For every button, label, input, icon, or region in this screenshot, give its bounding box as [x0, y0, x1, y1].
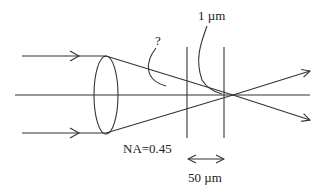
distance-label: 50 µm [188, 170, 222, 185]
converging-ray-top [106, 56, 233, 95]
incoming-ray-bottom [22, 128, 106, 138]
outgoing-ray-top-arrow [233, 71, 310, 95]
outgoing-ray-bottom-arrow [233, 95, 310, 120]
incoming-ray-top [22, 51, 106, 61]
spot-size-leader-line [199, 26, 222, 94]
spot-size-label: 1 µm [198, 8, 225, 23]
question-leader-line [148, 48, 166, 86]
numerical-aperture-label: NA=0.45 [123, 141, 172, 156]
optics-diagram: ? 1 µm NA=0.45 50 µm [0, 0, 325, 194]
converging-ray-bottom [106, 95, 233, 133]
question-label: ? [155, 33, 161, 48]
